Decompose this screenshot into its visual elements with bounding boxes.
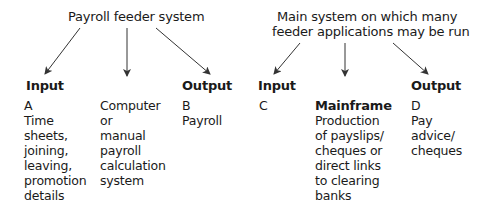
column-line: leaving, [24,158,86,173]
column-line: promotion [24,173,86,188]
arrow-to-right-input [274,43,300,74]
column-line: to clearing [315,173,392,188]
right-diagram-title-line2: feeder applications may be run [272,24,470,39]
column-line: banks [315,188,392,203]
column-line: cheques [411,143,462,158]
column-line: or [100,113,166,128]
column-line: payroll [100,143,166,158]
column-line: advice/ [411,128,462,143]
column-label-c: C [259,98,268,113]
left-input-heading: Input [26,78,64,93]
column-line: of payslips/ [315,128,392,143]
column-line: calculation [100,158,166,173]
mainframe-heading: Mainframe [315,98,392,113]
column-line: direct links [315,158,392,173]
column-label-a: A [24,98,86,113]
right-process-column: Mainframe Production of payslips/ cheque… [315,98,392,203]
column-line: Computer [100,98,166,113]
right-output-column: D Pay advice/ cheques [411,98,462,158]
column-line: system [100,173,166,188]
column-line: Time [24,113,86,128]
left-input-column: A Time sheets, joining, leaving, promoti… [24,98,86,203]
right-diagram-title-line1: Main system on which many [277,9,457,24]
column-label-d: D [411,98,462,113]
column-line: details [24,188,86,203]
left-output-column: B Payroll [182,98,222,128]
column-line: cheques or [315,143,392,158]
column-label-b: B [182,98,222,113]
column-line: manual [100,128,166,143]
arrow-to-left-input [45,28,80,74]
left-diagram-title: Payroll feeder system [68,9,204,24]
column-line: Production [315,113,392,128]
left-output-heading: Output [182,78,232,93]
left-process-column: Computer or manual payroll calculation s… [100,98,166,188]
arrow-to-left-output [156,28,210,74]
arrow-to-right-output [393,43,428,74]
column-line: joining, [24,143,86,158]
column-line: sheets, [24,128,86,143]
column-line: Pay [411,113,462,128]
right-output-heading: Output [411,78,461,93]
right-input-heading: Input [258,78,296,93]
column-line: Payroll [182,113,222,128]
right-input-column: C [259,98,268,113]
